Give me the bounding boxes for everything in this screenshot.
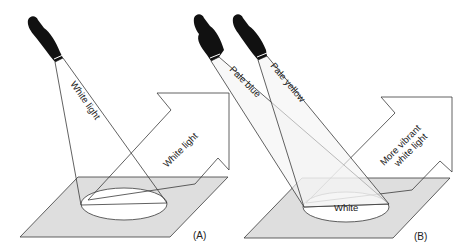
flashlight-blue-icon: [194, 14, 224, 61]
light-mixing-diagram: White light White light (A) Pale blue Pa…: [0, 0, 472, 249]
spot-label-white: White: [334, 202, 358, 213]
panel-label-b: (B): [414, 231, 427, 242]
reflected-label-a: White light: [161, 130, 200, 169]
panel-b: Pale blue Pale yellow White More vibrant…: [194, 14, 452, 242]
flashlight-icon: [28, 16, 63, 62]
panel-label-a: (A): [193, 230, 206, 241]
flashlight-yellow-icon: [233, 14, 267, 60]
panel-a: White light White light (A): [20, 16, 229, 241]
beam-label-a: White light: [68, 79, 103, 122]
